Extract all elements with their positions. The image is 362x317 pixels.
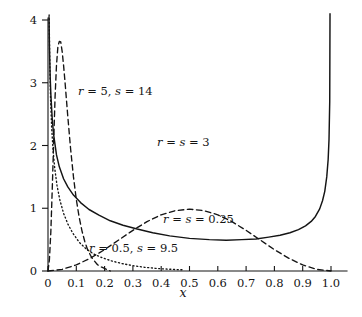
x-tick-label-3: 0.3 bbox=[124, 276, 142, 290]
y-tick-label-1: 1 bbox=[30, 201, 37, 215]
curve-label-1: r = s = 3 bbox=[157, 135, 210, 149]
x-tick-label-6: 0.6 bbox=[209, 276, 227, 290]
curve-label-0: r = 5, s = 14 bbox=[78, 84, 153, 98]
beta-density-figure: 00.10.20.30.40.50.60.70.80.91.001234 r =… bbox=[0, 0, 362, 317]
plot-canvas: 00.10.20.30.40.50.60.70.80.91.001234 r =… bbox=[0, 0, 362, 317]
tick-labels-layer: 00.10.20.30.40.50.60.70.80.91.001234 bbox=[30, 13, 340, 290]
x-tick-label-2: 0.2 bbox=[95, 276, 113, 290]
y-tick-label-2: 2 bbox=[30, 139, 37, 153]
y-tick-label-4: 4 bbox=[30, 13, 37, 27]
x-tick-label-9: 0.9 bbox=[294, 276, 312, 290]
x-tick-label-7: 0.7 bbox=[237, 276, 255, 290]
x-tick-label-0: 0 bbox=[44, 276, 51, 290]
curve-label-2: r = s = 0.25 bbox=[163, 212, 234, 226]
y-tick-label-3: 3 bbox=[30, 76, 37, 90]
curve-annotations-layer: r = 5, s = 14r = s = 3r = s = 0.25r = 0.… bbox=[78, 84, 234, 255]
x-tick-label-10: 1.0 bbox=[322, 276, 340, 290]
y-tick-label-0: 0 bbox=[30, 264, 37, 278]
curve-label-3: r = 0.5, s = 9.5 bbox=[89, 241, 178, 255]
x-tick-label-8: 0.8 bbox=[265, 276, 283, 290]
x-tick-label-4: 0.4 bbox=[152, 276, 170, 290]
x-axis-title: x bbox=[179, 285, 186, 300]
x-tick-label-1: 0.1 bbox=[67, 276, 85, 290]
curve-series-2 bbox=[49, 14, 330, 241]
